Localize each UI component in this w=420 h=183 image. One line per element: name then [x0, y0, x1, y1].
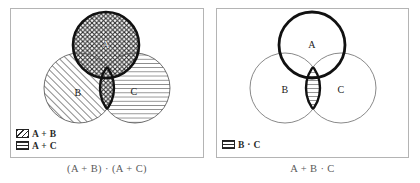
- caption-right: A + B · C: [216, 163, 409, 174]
- venn-diagram-figure: A B C A + B A + C (A + B) · (A + C): [0, 0, 420, 183]
- set-label-c: C: [338, 84, 345, 95]
- horizontal-line-swatch: [222, 140, 235, 149]
- legend-item: B · C: [222, 139, 261, 150]
- venn-right-graphic: A B C: [0, 0, 420, 183]
- legend-right: B · C: [222, 139, 261, 151]
- set-label-a: A: [308, 39, 316, 50]
- set-label-b: B: [282, 84, 289, 95]
- legend-item-label: B · C: [238, 140, 261, 150]
